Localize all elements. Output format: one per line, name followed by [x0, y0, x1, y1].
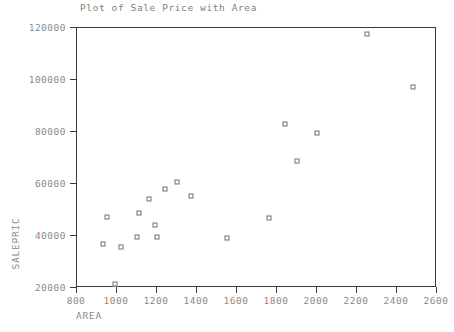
- data-points-layer: [77, 28, 435, 286]
- y-axis-title: SALEPRIC: [10, 209, 21, 279]
- data-point-marker: [295, 159, 300, 164]
- data-point-marker: [163, 187, 168, 192]
- data-point-marker: [155, 235, 160, 240]
- data-point-marker: [267, 215, 272, 220]
- x-axis-tick: [236, 287, 237, 293]
- x-axis-tick: [276, 287, 277, 293]
- y-axis-tick-label: 60000: [35, 178, 66, 189]
- x-axis-tick: [76, 287, 77, 293]
- data-point-marker: [365, 31, 370, 36]
- x-axis-tick-label: 2600: [424, 295, 449, 306]
- data-point-marker: [147, 196, 152, 201]
- data-point-marker: [137, 211, 142, 216]
- data-point-marker: [119, 244, 124, 249]
- x-axis-tick: [196, 287, 197, 293]
- data-point-marker: [101, 241, 106, 246]
- x-axis-tick-label: 1200: [144, 295, 169, 306]
- data-point-marker: [113, 282, 118, 287]
- data-point-marker: [189, 194, 194, 199]
- x-axis-tick-label: 2000: [304, 295, 329, 306]
- x-axis-tick: [396, 287, 397, 293]
- data-point-marker: [175, 180, 180, 185]
- x-axis-tick: [156, 287, 157, 293]
- chart-title: Plot of Sale Price with Area: [80, 2, 257, 13]
- data-point-marker: [135, 235, 140, 240]
- data-point-marker: [105, 214, 110, 219]
- data-point-marker: [411, 84, 416, 89]
- x-axis-tick-label: 1000: [104, 295, 129, 306]
- y-axis-tick-label: 80000: [35, 126, 66, 137]
- x-axis-tick-label: 2200: [344, 295, 369, 306]
- data-point-marker: [225, 236, 230, 241]
- data-point-marker: [315, 130, 320, 135]
- x-axis-tick: [316, 287, 317, 293]
- y-axis-tick-label: 40000: [35, 230, 66, 241]
- x-axis-tick: [356, 287, 357, 293]
- x-axis-tick-label: 800: [67, 295, 86, 306]
- x-axis-title: AREA: [76, 310, 102, 321]
- x-axis-tick-label: 1600: [224, 295, 249, 306]
- data-point-marker: [283, 122, 288, 127]
- scatter-plot-figure: Plot of Sale Price with Area SALEPRIC 20…: [0, 0, 454, 332]
- y-axis-tick-label: 20000: [35, 282, 66, 293]
- y-axis-tick-label: 100000: [29, 74, 66, 85]
- x-axis-tick: [116, 287, 117, 293]
- y-axis-tick-label: 120000: [29, 22, 66, 33]
- x-axis-tick: [436, 287, 437, 293]
- plot-area: [76, 27, 436, 287]
- x-axis-tick-label: 1400: [184, 295, 209, 306]
- x-axis-tick-label: 2400: [384, 295, 409, 306]
- data-point-marker: [153, 222, 158, 227]
- x-axis-tick-label: 1800: [264, 295, 289, 306]
